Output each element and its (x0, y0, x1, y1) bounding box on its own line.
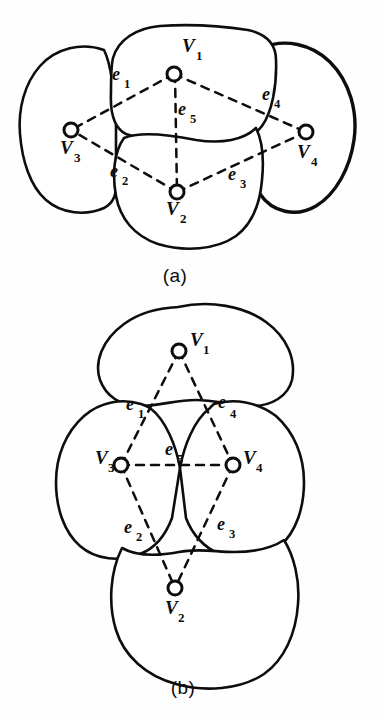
panel-b: V 1 V 2 V 3 V 4 e 1 e 2 e 3 e 4 e 5 (b) (56, 304, 304, 698)
vertex-label-v2-b: V (165, 597, 179, 618)
vertex-sub-v1-b: 1 (203, 342, 210, 357)
vertex-v1-b (172, 344, 186, 358)
edge-sub-e3-a: 3 (240, 177, 246, 191)
vertex-sub-v2-b: 2 (178, 610, 185, 625)
vertex-sub-v4-a: 4 (311, 154, 318, 169)
edge-label-e5-a: e (178, 99, 186, 119)
planar-graph-figure: V 1 V 2 V 3 V 4 e 1 e 2 e 3 e 4 e 5 (a) (0, 0, 383, 719)
region-v3-b (56, 401, 180, 558)
vertex-v3-a (64, 123, 78, 137)
edge-label-e2-b: e (124, 517, 132, 537)
edge-sub-e1-b: 1 (138, 407, 144, 421)
vertex-v2-a (170, 185, 184, 199)
vertex-v1-a (167, 67, 181, 81)
edge-sub-e1-a: 1 (124, 77, 130, 91)
edge-label-e3-a: e (228, 164, 236, 184)
region-v1-b (98, 304, 293, 406)
vertex-v3-b (114, 458, 128, 472)
vertex-label-v2-a: V (166, 198, 180, 219)
vertex-sub-v3-b: 3 (108, 460, 115, 475)
edge-label-e1-a: e (112, 64, 120, 84)
vertex-sub-v3-a: 3 (74, 150, 81, 165)
vertex-v2-b (168, 581, 182, 595)
vertex-label-v3-b: V (95, 447, 109, 468)
panel-a: V 1 V 2 V 3 V 4 e 1 e 2 e 3 e 4 e 5 (a) (20, 25, 355, 286)
caption-panel-b: (b) (171, 677, 196, 698)
edge-label-e4-a: e (262, 84, 270, 104)
vertex-sub-v2-a: 2 (180, 211, 187, 226)
region-v2-b (111, 540, 298, 689)
vertex-v4-b (226, 458, 240, 472)
vertex-label-v4-b: V (243, 447, 257, 468)
edge-sub-e2-a: 2 (122, 174, 128, 188)
edge-label-e2-a: e (110, 161, 118, 181)
vertex-label-v3-a: V (60, 137, 74, 158)
edge-sub-e4-a: 4 (274, 97, 281, 111)
vertex-v4-a (299, 125, 313, 139)
edge-label-e1-b: e (126, 394, 134, 414)
vertex-sub-v1-a: 1 (196, 48, 203, 63)
edge-sub-e4-b: 4 (230, 407, 237, 421)
edge-label-e3-b: e (217, 514, 225, 534)
edge-sub-e5-a: 5 (190, 112, 196, 126)
figure-root: V 1 V 2 V 3 V 4 e 1 e 2 e 3 e 4 e 5 (a) (0, 0, 383, 719)
edge-sub-e5-b: 5 (177, 452, 183, 466)
caption-panel-a: (a) (163, 265, 188, 286)
edge-sub-e3-b: 3 (229, 527, 235, 541)
vertex-label-v1-a: V (182, 35, 196, 56)
vertex-sub-v4-b: 4 (256, 460, 263, 475)
vertex-label-v1-b: V (190, 329, 204, 350)
edge-label-e5-b: e (165, 439, 173, 459)
edge-sub-e2-b: 2 (136, 530, 142, 544)
edge-label-e4-b: e (218, 392, 226, 412)
vertex-label-v4-a: V (297, 141, 311, 162)
